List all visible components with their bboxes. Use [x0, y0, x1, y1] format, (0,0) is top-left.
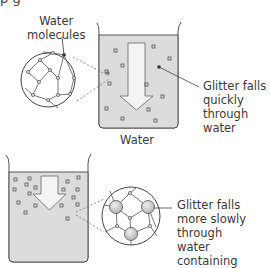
bottom-beaker: [6, 154, 91, 262]
glitter-falls-slowly-label: Glitter falls more slowly through water …: [177, 198, 246, 268]
glitter-falls-quickly-label: Glitter falls quickly through water: [203, 79, 266, 135]
top-molecule-magnifier: [21, 37, 109, 108]
water-caption: Water: [120, 133, 154, 147]
top-beaker: [97, 22, 181, 128]
water-molecules-label: Water molecules: [27, 14, 85, 42]
bottom-molecule-magnifier: [76, 187, 172, 245]
